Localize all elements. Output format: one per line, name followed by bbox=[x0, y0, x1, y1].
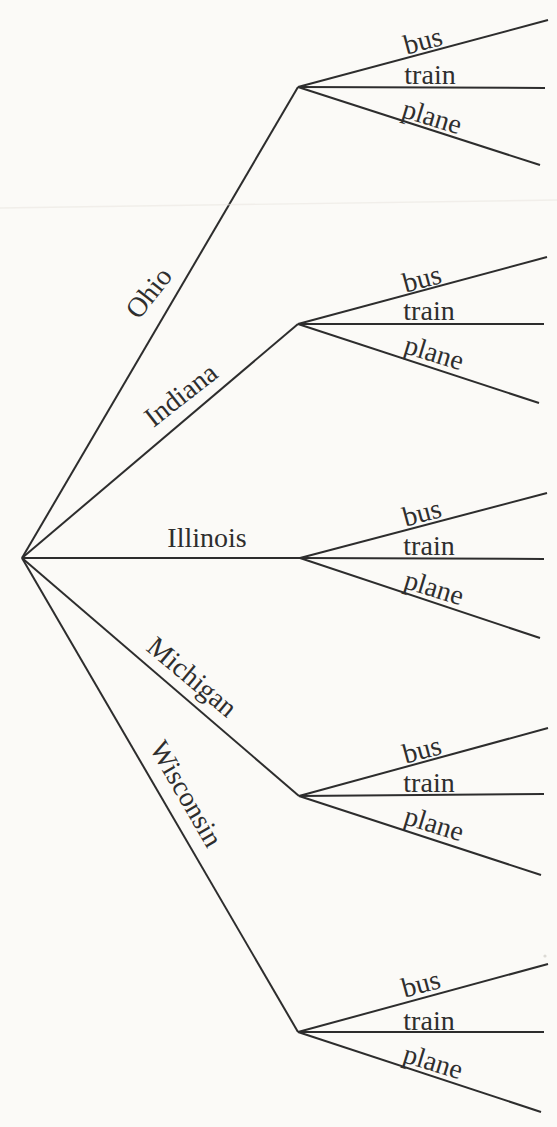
scanned-page: Ohio Indiana Illinois Michigan Wisconsin… bbox=[0, 0, 557, 1127]
state-label-michigan: Michigan bbox=[141, 630, 243, 723]
state-label-ohio: Ohio bbox=[119, 261, 178, 324]
branch-ohio bbox=[22, 87, 298, 558]
scan-artifact-streak bbox=[0, 200, 557, 208]
mode-label-wisconsin-bus: bus bbox=[398, 964, 444, 1004]
branch-wisconsin bbox=[22, 558, 298, 1032]
mode-label-illinois-train: train bbox=[403, 530, 454, 561]
mode-label-ohio-bus: bus bbox=[400, 21, 446, 61]
state-label-indiana: Indiana bbox=[138, 356, 224, 432]
mode-label-illinois-bus: bus bbox=[399, 493, 445, 533]
branch-indiana bbox=[22, 324, 298, 558]
mode-label-michigan-train: train bbox=[403, 767, 454, 798]
mode-label-indiana-bus: bus bbox=[399, 259, 445, 299]
mode-label-indiana-train: train bbox=[403, 295, 454, 326]
tree-diagram: Ohio Indiana Illinois Michigan Wisconsin… bbox=[0, 0, 557, 1127]
mode-label-wisconsin-train: train bbox=[403, 1005, 454, 1036]
mode-label-illinois-plane: plane bbox=[401, 564, 468, 611]
state-label-illinois: Illinois bbox=[167, 522, 246, 553]
mode-label-wisconsin-plane: plane bbox=[400, 1038, 467, 1085]
mode-label-michigan-bus: bus bbox=[399, 730, 445, 770]
state-label-wisconsin: Wisconsin bbox=[144, 735, 229, 852]
scan-artifact-speck bbox=[543, 954, 546, 957]
mode-label-ohio-plane: plane bbox=[399, 93, 466, 140]
mode-label-ohio-train: train bbox=[404, 59, 455, 90]
